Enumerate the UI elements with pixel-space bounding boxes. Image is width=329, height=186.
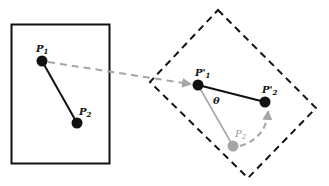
label-p1: P1 <box>35 43 48 56</box>
point-p1 <box>37 56 48 67</box>
translation-arrow <box>48 62 190 84</box>
label-p2: P2 <box>78 106 92 119</box>
segment-p1prime-p2prime <box>198 85 265 102</box>
point-p2-prime <box>260 97 271 108</box>
label-p2-prime: P'2 <box>261 84 278 97</box>
transformation-diagram: P1 P2 P'1 P'2 P2 θ <box>0 0 329 186</box>
point-p1-prime <box>193 80 204 91</box>
label-p1-prime: P'1 <box>194 67 210 80</box>
point-p2 <box>72 118 83 129</box>
label-p2-ghost: P2 <box>234 128 247 141</box>
segment-p1-p2 <box>42 61 77 123</box>
label-theta: θ <box>213 95 220 106</box>
point-p2-ghost <box>228 141 239 152</box>
